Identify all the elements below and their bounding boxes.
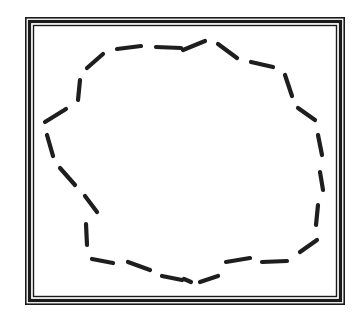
outline-dash	[226, 258, 250, 262]
frame-line-2	[30, 22, 341, 301]
outline-dash	[262, 261, 287, 262]
outline-dash	[218, 44, 237, 58]
frame-line-3	[34, 26, 337, 297]
outline-dash	[156, 47, 181, 48]
triple-line-frame	[26, 18, 344, 304]
outline-dash	[162, 276, 182, 280]
outline-dash	[251, 62, 273, 67]
outline-dash	[47, 135, 53, 156]
outline-dash	[183, 41, 205, 50]
outline-dash	[320, 172, 323, 190]
outline-dash	[298, 108, 315, 120]
outline-dash	[85, 196, 97, 212]
outline-dash	[86, 224, 87, 245]
outline-drawing	[0, 0, 364, 323]
outline-dash	[285, 75, 292, 96]
outline-dash	[87, 54, 103, 68]
outline-dash	[184, 279, 191, 282]
dashed-closed-outline	[45, 41, 323, 282]
outline-dash	[318, 135, 322, 155]
outline-dash	[300, 240, 317, 252]
outline-dash	[128, 262, 150, 270]
outline-dash	[60, 168, 75, 185]
outline-dash	[78, 80, 80, 100]
outline-dash	[45, 109, 66, 122]
outline-dash	[92, 259, 113, 263]
outline-dash	[316, 205, 318, 225]
frame-line-1	[26, 18, 344, 304]
outline-dash	[117, 46, 141, 49]
outline-dash	[200, 276, 218, 282]
